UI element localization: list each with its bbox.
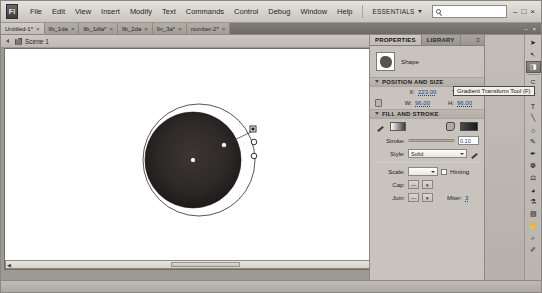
stroke-width-value[interactable]: 0.10 [458,136,479,145]
fill-color-swatch[interactable] [460,122,478,131]
menu-item-modify[interactable]: Modify [125,5,157,18]
x-value[interactable]: 223.00 [418,89,440,95]
join-style-button[interactable]: — [408,193,419,202]
close-icon[interactable]: × [178,26,182,32]
menu-item-edit[interactable]: Edit [47,5,70,18]
bone-tool[interactable]: ⚖ [526,172,541,184]
menu-item-list: File Edit View Insert Modify Text Comman… [25,5,367,18]
panel-divider [374,162,480,163]
tab-library[interactable]: LIBRARY [422,35,461,45]
pencil-tool[interactable]: ✎ [526,136,541,148]
scale-select[interactable] [408,167,438,176]
tab-properties[interactable]: PROPERTIES [370,35,422,45]
document-tab-4[interactable]: llb_2da × [118,23,153,34]
cap-style-dropdown[interactable]: ▾ [422,180,433,189]
stroke-width-slider[interactable] [408,139,455,142]
document-tab-label: lln_3a* [157,26,175,32]
menu-item-file[interactable]: File [25,5,47,18]
hinting-label: Hinting [450,168,469,175]
edit-stroke-style-icon[interactable] [470,149,479,158]
hinting-checkbox[interactable] [441,169,447,175]
close-icon[interactable]: × [109,26,113,32]
cap-row: Cap: — ▾ [370,178,484,191]
maximize-icon[interactable]: □ [521,8,526,16]
menu-item-insert[interactable]: Insert [96,5,125,18]
paint-bucket-icon [446,122,455,131]
miter-label: Miter: [442,195,462,201]
document-tab-6[interactable]: number-2* × [187,23,231,34]
gradient-width-handle[interactable] [251,139,257,145]
zoom-tool[interactable]: ⌕ [526,232,541,244]
close-icon[interactable]: × [36,26,40,32]
line-tool[interactable]: ╲ [526,112,541,124]
document-tab-5[interactable]: lln_3a* × [153,23,187,34]
document-tab-label: llb_1dla* [83,26,106,32]
subselection-tool[interactable]: ↖ [526,49,541,61]
menu-item-window[interactable]: Window [295,5,332,18]
tooltip: Gradient Transform Tool (F) [453,86,535,96]
selection-tool[interactable]: ➤ [526,37,541,49]
ink-bottle-tool[interactable]: ✐ [526,244,541,256]
menu-item-view[interactable]: View [70,5,96,18]
oval-tool[interactable]: ○ [526,124,541,136]
eyedropper-tool[interactable]: ⚗ [526,196,541,208]
shape-icon [380,56,392,68]
document-tab-label: Untitled-1* [5,26,33,32]
cap-style-button[interactable]: — [408,180,419,189]
gradient-transform-tool[interactable]: ◨ [526,61,541,73]
close-icon[interactable]: × [532,26,536,32]
back-arrow-icon[interactable] [6,39,9,43]
text-tool[interactable]: T [526,100,541,112]
menu-item-debug[interactable]: Debug [263,5,295,18]
gradient-size-handle[interactable] [251,153,257,159]
properties-panel: PROPERTIES LIBRARY ≡ Shape POSITION AND … [369,35,484,280]
minimize-icon[interactable]: – [513,8,517,16]
scene-breadcrumb-label[interactable]: Scene 1 [25,38,49,45]
stroke-width-row: Stroke: 0.10 [370,134,484,147]
deco-tool[interactable]: ❁ [526,160,541,172]
window-controls: – □ × [513,8,535,16]
tool-divider [527,74,540,75]
menu-item-help[interactable]: Help [332,5,357,18]
shape-svg [141,94,281,229]
h-value[interactable]: 96.00 [457,100,472,106]
panel-tab-bar: PROPERTIES LIBRARY ≡ [370,35,484,46]
w-value[interactable]: 96.00 [415,100,437,106]
miter-value[interactable]: 3 [465,195,468,201]
gradient-focal-handle[interactable] [221,142,226,147]
document-tab-label: llb_1da [49,26,68,32]
panel-menu-icon[interactable]: ≡ [476,35,484,45]
document-tab-untitled-1[interactable]: Untitled-1* × [1,23,45,34]
document-tab-3[interactable]: llb_1dla* × [79,23,118,34]
workspace-switcher-button[interactable]: ESSENTIALS [367,5,428,18]
close-icon[interactable]: × [530,8,535,16]
stroke-color-swatch[interactable] [390,122,406,131]
selected-shape-with-gradient-transform[interactable] [141,94,281,229]
style-row: Style: Solid [370,147,484,160]
menu-item-control[interactable]: Control [229,5,263,18]
document-tab-2[interactable]: llb_1da × [45,23,80,34]
brush-tool[interactable]: ✒ [526,148,541,160]
close-icon[interactable]: × [144,26,148,32]
menu-item-commands[interactable]: Commands [181,5,229,18]
scrollbar-thumb[interactable] [171,262,240,267]
paint-bucket-tool[interactable]: ◕ [526,184,541,196]
minimize-icon[interactable]: – [524,26,527,32]
eraser-tool[interactable]: ▧ [526,208,541,220]
join-style-dropdown[interactable]: ▾ [422,193,433,202]
close-icon[interactable]: × [222,26,226,32]
search-input[interactable] [443,8,503,15]
gradient-center-handle[interactable] [190,157,195,162]
search-box[interactable] [432,5,507,18]
close-icon[interactable]: × [71,26,75,32]
section-header-fill-and-stroke[interactable]: FILL AND STROKE [370,109,484,119]
scale-label: Scale: [375,169,405,175]
hand-tool[interactable]: ✋ [526,220,541,232]
menu-item-text[interactable]: Text [157,5,181,18]
stroke-style-select[interactable]: Solid [408,149,467,158]
lock-aspect-ratio-icon[interactable] [375,99,382,107]
scroll-left-icon[interactable]: ◀ [6,262,12,268]
size-row: W: 96.00 H: 96.00 [370,97,484,109]
chevron-down-icon [431,171,435,173]
scale-row: Scale: Hinting [370,165,484,178]
